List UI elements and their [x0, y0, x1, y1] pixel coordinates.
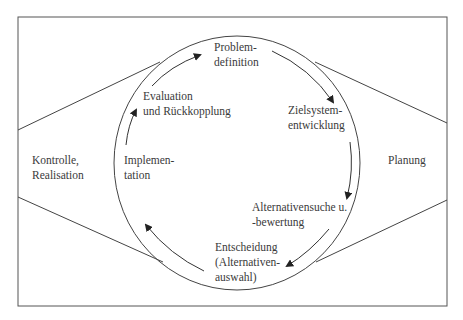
label-line: Entscheidung: [215, 240, 280, 255]
label-line: Implemen-: [124, 153, 174, 168]
arrow-ziel-to-alternativen: [347, 142, 351, 198]
label-line: Planung: [388, 153, 426, 168]
label-line: tation: [124, 168, 174, 183]
label-line: Alternativensuche u.: [252, 200, 347, 215]
label-kontrolle-realisation: Kontrolle, Realisation: [32, 153, 84, 183]
left-lower-line: [18, 197, 163, 262]
arrow-evaluation-to-problem: [152, 55, 200, 86]
label-alternativensuche: Alternativensuche u. -bewertung: [252, 200, 347, 230]
arrow-problem-to-ziel: [272, 51, 333, 102]
label-line: Zielsystem-: [288, 103, 345, 118]
label-evaluation: Evaluation und Rückkopplung: [143, 89, 231, 119]
label-line: Kontrolle,: [32, 153, 84, 168]
label-line: entwicklung: [288, 118, 345, 133]
label-line: Evaluation: [143, 89, 231, 104]
label-line: Realisation: [32, 168, 84, 183]
label-problemdefinition: Problem- definition: [214, 40, 259, 70]
label-planung: Planung: [388, 153, 426, 168]
label-line: definition: [214, 55, 259, 70]
left-upper-line: [18, 62, 160, 130]
label-entscheidung: Entscheidung (Alternativen- auswahl): [215, 240, 280, 285]
label-zielsystem: Zielsystem- entwicklung: [288, 103, 345, 133]
label-line: auswahl): [215, 270, 280, 285]
arrow-entscheidung-to-implementation: [146, 225, 204, 271]
label-implementation: Implemen- tation: [124, 153, 174, 183]
label-line: Problem-: [214, 40, 259, 55]
label-line: (Alternativen-: [215, 255, 280, 270]
label-line: und Rückkopplung: [143, 104, 231, 119]
arrow-alternativen-to-entscheidung: [287, 229, 329, 266]
arrow-implementation-to-evaluation: [126, 110, 136, 145]
label-line: -bewertung: [252, 215, 347, 230]
